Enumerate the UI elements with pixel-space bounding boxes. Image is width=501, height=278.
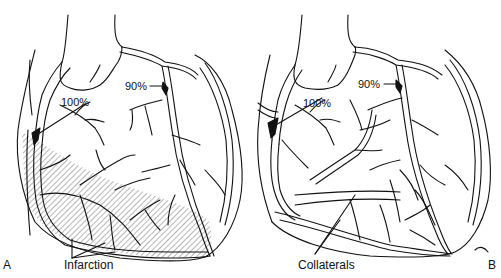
panel-label-b: B — [488, 258, 496, 272]
panel-b-heart-collaterals: 100% 90% Collaterals B — [250, 0, 500, 278]
stenosis-label-100-a: 100% — [61, 96, 89, 108]
stenosis-label-100-b: 100% — [303, 97, 331, 109]
panel-label-a: A — [3, 258, 11, 272]
stenosis-label-90-a: 90% — [125, 80, 147, 92]
collaterals-label: Collaterals — [298, 258, 355, 272]
heart-a-drawing — [0, 0, 250, 278]
heart-b-drawing — [250, 0, 501, 278]
panel-a-heart-infarction: 100% 90% Infarction A — [0, 0, 250, 278]
stenosis-label-90-b: 90% — [358, 78, 380, 90]
infarction-label: Infarction — [64, 258, 113, 272]
